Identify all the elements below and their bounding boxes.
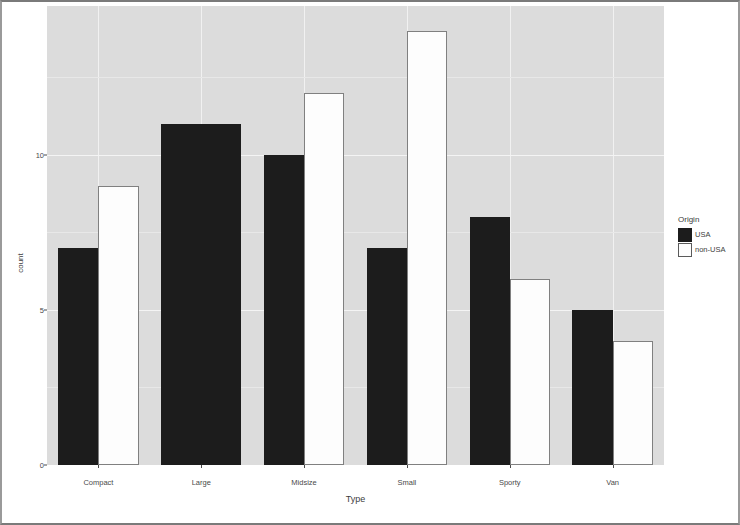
gridline-minor <box>47 77 664 78</box>
legend-label-non-usa: non-USA <box>695 245 725 254</box>
y-axis: 0510 <box>2 6 47 465</box>
bar-compact-usa <box>58 248 98 465</box>
x-tick-mark <box>304 465 305 468</box>
x-tick-label-midsize: Midsize <box>291 478 316 487</box>
chart-figure: 0510 count CompactLargeMidsizeSmallSport… <box>0 0 740 525</box>
bar-midsize-usa <box>264 155 304 465</box>
x-tick-label-sporty: Sporty <box>499 478 521 487</box>
plot-panel <box>47 6 664 465</box>
gridline-minor <box>47 387 664 388</box>
x-tick-label-van: Van <box>606 478 619 487</box>
y-axis-label: count <box>16 253 25 273</box>
legend-item-usa[interactable]: USA <box>678 227 738 242</box>
y-tick-mark <box>44 309 47 310</box>
bar-midsize-non-usa <box>304 93 344 465</box>
bar-sporty-usa <box>470 217 510 465</box>
bar-small-usa <box>367 248 407 465</box>
gridline-minor <box>47 232 664 233</box>
x-tick-label-small: Small <box>398 478 417 487</box>
y-tick-mark <box>44 154 47 155</box>
bar-sporty-non-usa <box>510 279 550 465</box>
bar-van-non-usa <box>613 341 653 465</box>
y-tick-label: 10 <box>36 150 44 159</box>
x-tick-label-large: Large <box>192 478 211 487</box>
x-tick-mark <box>98 465 99 468</box>
bar-large-usa <box>161 124 241 465</box>
x-tick-mark <box>510 465 511 468</box>
x-tick-mark <box>613 465 614 468</box>
legend-label-usa: USA <box>695 230 710 239</box>
gridline-major <box>47 155 664 156</box>
legend-swatch-usa <box>678 228 692 242</box>
x-tick-mark <box>201 465 202 468</box>
x-tick-mark <box>407 465 408 468</box>
x-axis: CompactLargeMidsizeSmallSportyVan <box>47 465 664 495</box>
gridline-major <box>47 310 664 311</box>
x-axis-label: Type <box>47 494 664 504</box>
x-tick-label-compact: Compact <box>83 478 113 487</box>
legend-item-non-usa[interactable]: non-USA <box>678 242 738 257</box>
bar-van-usa <box>572 310 612 465</box>
legend-swatch-non-usa <box>678 243 692 257</box>
bar-small-non-usa <box>407 31 447 465</box>
legend: Origin USA non-USA <box>678 215 738 257</box>
bar-compact-non-usa <box>98 186 138 465</box>
legend-title: Origin <box>678 215 738 224</box>
